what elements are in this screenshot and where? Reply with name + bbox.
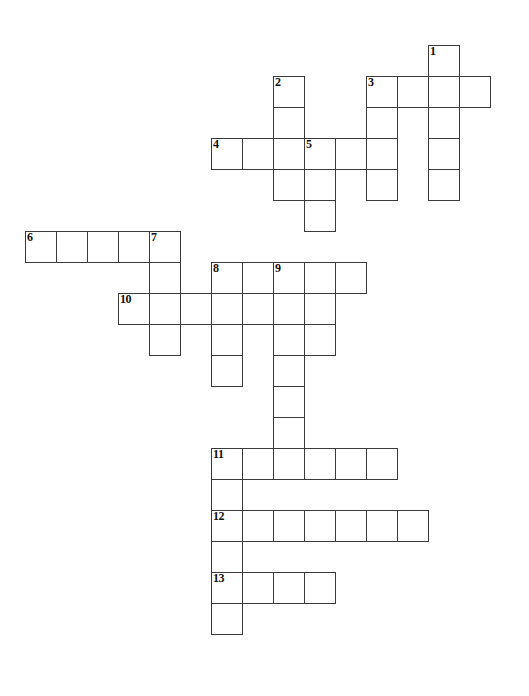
crossword-cell[interactable]	[149, 262, 181, 294]
crossword-cell[interactable]	[335, 262, 367, 294]
crossword-cell[interactable]	[211, 603, 243, 635]
crossword-cell[interactable]	[273, 107, 305, 139]
clue-number-11: 11	[213, 448, 224, 461]
clue-number-7: 7	[151, 231, 157, 244]
crossword-cell[interactable]	[366, 169, 398, 201]
crossword-cell[interactable]	[459, 76, 491, 108]
crossword-cell[interactable]	[335, 510, 367, 542]
crossword-cell[interactable]	[149, 324, 181, 356]
clue-number-10: 10	[120, 293, 131, 306]
clue-number-5: 5	[306, 138, 312, 151]
crossword-cell[interactable]	[273, 324, 305, 356]
clue-number-8: 8	[213, 262, 219, 275]
crossword-cell-numbered-7[interactable]: 7	[149, 231, 181, 263]
crossword-cell[interactable]	[211, 541, 243, 573]
crossword-cell[interactable]	[273, 386, 305, 418]
crossword-cell[interactable]	[366, 107, 398, 139]
crossword-cell[interactable]	[180, 293, 212, 325]
crossword-cell[interactable]	[211, 355, 243, 387]
clue-number-9: 9	[275, 262, 281, 275]
crossword-cell[interactable]	[273, 448, 305, 480]
crossword-cell-numbered-5[interactable]: 5	[304, 138, 336, 170]
crossword-cell[interactable]	[56, 231, 88, 263]
clue-number-3: 3	[368, 76, 374, 89]
crossword-cell[interactable]	[273, 510, 305, 542]
crossword-cell-numbered-8[interactable]: 8	[211, 262, 243, 294]
crossword-cell[interactable]	[335, 138, 367, 170]
clue-number-2: 2	[275, 76, 281, 89]
crossword-cell-numbered-2[interactable]: 2	[273, 76, 305, 108]
crossword-cell[interactable]	[304, 293, 336, 325]
crossword-cell[interactable]	[242, 448, 274, 480]
clue-number-6: 6	[27, 231, 33, 244]
crossword-cell[interactable]	[366, 510, 398, 542]
crossword-cell[interactable]	[366, 448, 398, 480]
crossword-cell[interactable]	[242, 138, 274, 170]
crossword-cell-numbered-1[interactable]: 1	[428, 45, 460, 77]
crossword-cell-numbered-11[interactable]: 11	[211, 448, 243, 480]
crossword-cell-numbered-12[interactable]: 12	[211, 510, 243, 542]
crossword-cell[interactable]	[304, 448, 336, 480]
crossword-cell[interactable]	[335, 448, 367, 480]
crossword-cell[interactable]	[273, 572, 305, 604]
crossword-cell[interactable]	[304, 572, 336, 604]
crossword-cell-numbered-10[interactable]: 10	[118, 293, 150, 325]
crossword-cell[interactable]	[304, 510, 336, 542]
clue-number-12: 12	[213, 510, 224, 523]
crossword-cell-numbered-6[interactable]: 6	[25, 231, 57, 263]
crossword-cell[interactable]	[211, 479, 243, 511]
clue-number-1: 1	[430, 45, 436, 58]
crossword-cell-numbered-4[interactable]: 4	[211, 138, 243, 170]
crossword-cell[interactable]	[304, 262, 336, 294]
crossword-cell[interactable]	[304, 169, 336, 201]
crossword-cell[interactable]	[397, 76, 429, 108]
crossword-cell-numbered-9[interactable]: 9	[273, 262, 305, 294]
crossword-cell[interactable]	[273, 138, 305, 170]
crossword-cell[interactable]	[397, 510, 429, 542]
crossword-cell-numbered-13[interactable]: 13	[211, 572, 243, 604]
crossword-puzzle: 12345678910111213	[0, 0, 529, 696]
crossword-cell[interactable]	[87, 231, 119, 263]
crossword-cell[interactable]	[149, 293, 181, 325]
crossword-cell[interactable]	[211, 293, 243, 325]
crossword-cell[interactable]	[304, 324, 336, 356]
crossword-cell-numbered-3[interactable]: 3	[366, 76, 398, 108]
crossword-cell[interactable]	[428, 169, 460, 201]
crossword-cell[interactable]	[304, 200, 336, 232]
crossword-cell[interactable]	[428, 76, 460, 108]
crossword-cell[interactable]	[428, 138, 460, 170]
crossword-cell[interactable]	[118, 231, 150, 263]
crossword-cell[interactable]	[211, 324, 243, 356]
crossword-cell[interactable]	[242, 293, 274, 325]
crossword-cell[interactable]	[242, 572, 274, 604]
crossword-cell[interactable]	[366, 138, 398, 170]
crossword-cell[interactable]	[273, 417, 305, 449]
crossword-cell[interactable]	[428, 107, 460, 139]
clue-number-13: 13	[213, 572, 224, 585]
crossword-cell[interactable]	[273, 293, 305, 325]
crossword-cell[interactable]	[242, 510, 274, 542]
clue-number-4: 4	[213, 138, 219, 151]
crossword-cell[interactable]	[273, 169, 305, 201]
crossword-cell[interactable]	[273, 355, 305, 387]
crossword-cell[interactable]	[242, 262, 274, 294]
